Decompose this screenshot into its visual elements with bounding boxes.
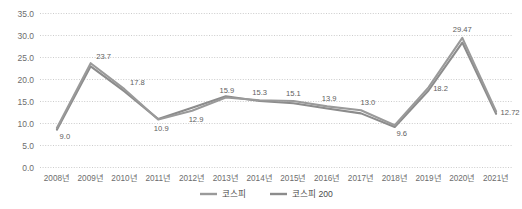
y-tick-label: 30.0 (17, 31, 34, 41)
line-chart: 0.05.010.015.020.025.030.035.0 9.023.717… (0, 0, 522, 209)
data-label: 9.6 (396, 129, 407, 138)
x-tick-label: 2017년 (348, 173, 374, 183)
x-tick-label: 2015년 (280, 173, 306, 183)
x-tick-label: 2020년 (449, 173, 475, 183)
x-tick-label: 2012년 (179, 173, 205, 183)
x-tick-label: 2018년 (382, 173, 408, 183)
data-label: 12.72 (501, 108, 520, 117)
data-label: 13.9 (322, 94, 337, 103)
x-tick-label: 2010년 (111, 173, 137, 183)
x-tick-label: 2021년 (483, 173, 509, 183)
y-tick-label: 0.0 (22, 163, 34, 173)
chart-canvas: 0.05.010.015.020.025.030.035.0 9.023.717… (0, 0, 522, 209)
x-tick-label: 2014년 (246, 173, 272, 183)
series-lines (57, 38, 496, 130)
data-label: 18.2 (433, 84, 448, 93)
y-tick-label: 10.0 (17, 119, 34, 129)
chart-legend: 코스피코스피 200 (200, 189, 333, 199)
data-label: 15.1 (286, 89, 301, 98)
x-tick-label: 2016년 (314, 173, 340, 183)
data-label: 12.9 (189, 115, 204, 124)
data-label: 17.8 (130, 78, 145, 87)
y-tick-label: 25.0 (17, 53, 34, 63)
data-label: 13.0 (361, 98, 376, 107)
y-tick-label: 15.0 (17, 97, 34, 107)
y-axis-tick-labels: 0.05.010.015.020.025.030.035.0 (17, 9, 34, 173)
legend-label-kospi[interactable]: 코스피 (222, 189, 246, 199)
data-label: 15.9 (219, 86, 234, 95)
data-label: 23.7 (96, 52, 111, 61)
x-tick-label: 2019년 (415, 173, 441, 183)
x-tick-label: 2009년 (78, 173, 104, 183)
data-label: 10.9 (154, 124, 169, 133)
legend-label-kospi-200[interactable]: 코스피 200 (292, 189, 333, 199)
y-tick-label: 20.0 (17, 75, 34, 85)
data-label: 9.0 (60, 132, 71, 141)
x-axis-tick-labels: 2008년2009년2010년2011년2012년2013년2014년2015년… (44, 173, 509, 183)
series-line-kospi (57, 38, 496, 128)
x-tick-label: 2011년 (145, 173, 171, 183)
data-label: 15.3 (252, 88, 267, 97)
x-tick-label: 2008년 (44, 173, 70, 183)
x-tick-label: 2013년 (213, 173, 239, 183)
y-tick-label: 35.0 (17, 9, 34, 19)
y-tick-label: 5.0 (22, 141, 34, 151)
data-label: 29.47 (453, 25, 472, 34)
